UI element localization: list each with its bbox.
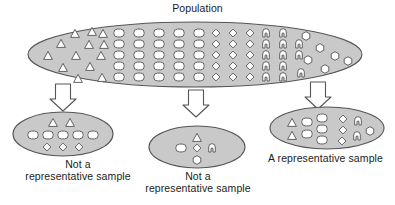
arrow-to-left-sample bbox=[50, 84, 76, 111]
left-sample-caption: Not a representative sample bbox=[10, 158, 146, 183]
population-sampling-diagram: Population Not a representative sample N… bbox=[0, 0, 395, 205]
right-sample bbox=[270, 107, 384, 149]
page-title: Population bbox=[0, 2, 395, 14]
middle-sample bbox=[149, 126, 245, 168]
population-ellipse bbox=[28, 22, 362, 87]
left-sample bbox=[13, 112, 113, 156]
arrow-to-right-sample bbox=[305, 82, 331, 109]
middle-sample-caption: Not a representative sample bbox=[130, 170, 266, 195]
arrow-to-middle-sample bbox=[183, 90, 209, 117]
right-sample-caption: A representative sample bbox=[256, 152, 395, 164]
